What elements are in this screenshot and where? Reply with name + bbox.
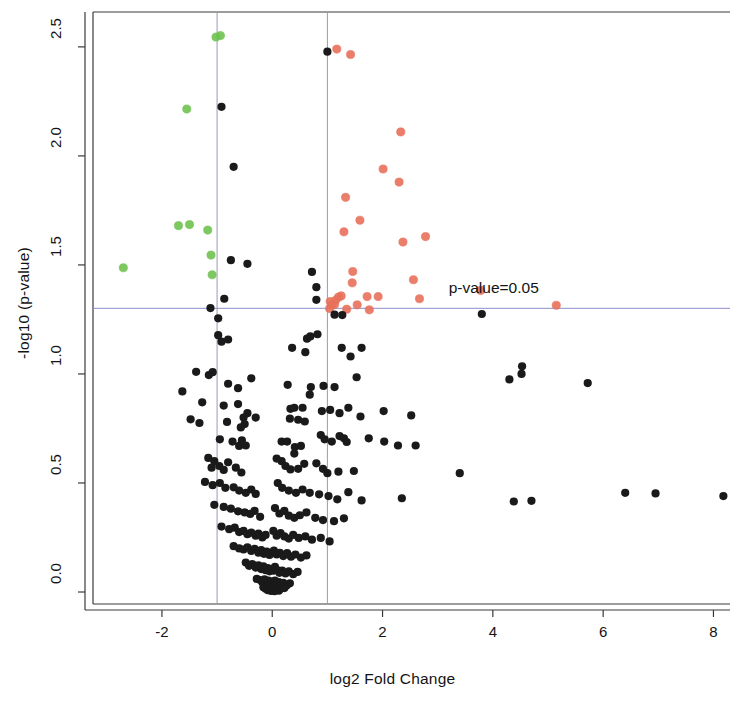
data-point <box>119 264 127 272</box>
y-axis-title: -log10 (p-value) <box>15 193 33 413</box>
data-point <box>312 296 320 304</box>
data-point <box>288 344 296 352</box>
data-point <box>399 238 407 246</box>
data-point <box>209 368 217 376</box>
data-point <box>527 497 535 505</box>
y-tick-label: 1.0 <box>47 337 64 373</box>
data-point <box>216 31 224 39</box>
x-tick-label: 0 <box>268 623 276 640</box>
series-not-significant <box>178 48 727 596</box>
x-tick-label: 6 <box>599 623 607 640</box>
data-point <box>313 330 321 338</box>
data-point <box>421 232 429 240</box>
threshold-lines <box>93 12 730 604</box>
data-point <box>349 267 357 275</box>
data-point <box>344 488 352 496</box>
data-point <box>365 434 373 442</box>
data-point <box>357 496 365 504</box>
data-point <box>308 268 316 276</box>
data-point <box>397 128 405 136</box>
x-tick-label: 2 <box>378 623 386 640</box>
data-point <box>252 413 260 421</box>
data-point <box>374 292 382 300</box>
data-point <box>330 517 338 525</box>
data-point <box>398 494 406 502</box>
data-point <box>323 469 331 477</box>
data-point <box>323 48 331 56</box>
data-point <box>319 516 327 524</box>
x-tick-label: -2 <box>155 623 168 640</box>
data-point <box>262 531 270 539</box>
data-point <box>242 441 250 449</box>
data-points-layer <box>119 31 727 595</box>
data-point <box>256 513 264 521</box>
data-point <box>311 514 319 522</box>
data-point <box>209 481 217 489</box>
data-point <box>518 362 526 370</box>
data-point <box>317 534 325 542</box>
data-point <box>380 407 388 415</box>
data-point <box>223 418 231 426</box>
data-point <box>621 489 629 497</box>
data-point <box>308 536 316 544</box>
data-point <box>216 435 224 443</box>
data-point <box>338 311 346 319</box>
data-point <box>312 283 320 291</box>
data-point <box>333 495 341 503</box>
data-point <box>192 368 200 376</box>
data-point <box>302 551 310 559</box>
data-point <box>224 380 232 388</box>
data-point <box>198 398 206 406</box>
data-point <box>174 222 182 230</box>
data-point <box>207 464 215 472</box>
data-point <box>217 522 225 530</box>
volcano-plot-figure: -2024680.00.51.01.52.02.5 p-value=0.05 l… <box>0 0 730 703</box>
pvalue-threshold-label: p-value=0.05 <box>449 279 539 297</box>
data-point <box>220 466 228 474</box>
data-point <box>285 487 293 495</box>
data-point <box>221 484 229 492</box>
data-point <box>286 415 294 423</box>
data-point <box>183 105 191 113</box>
data-point <box>206 304 214 312</box>
data-point <box>283 437 291 445</box>
data-point <box>338 344 346 352</box>
data-point <box>204 226 212 234</box>
data-point <box>315 490 323 498</box>
data-point <box>220 295 228 303</box>
data-point <box>306 332 314 340</box>
data-point <box>407 411 415 419</box>
data-point <box>284 381 292 389</box>
data-point <box>341 193 349 201</box>
data-point <box>357 344 365 352</box>
data-point <box>298 485 306 493</box>
data-point <box>208 271 216 279</box>
data-point <box>552 301 560 309</box>
data-point <box>307 383 315 391</box>
data-point <box>234 400 242 408</box>
data-point <box>259 583 267 591</box>
data-point <box>195 419 203 427</box>
data-point <box>394 441 402 449</box>
y-tick-label: 2.5 <box>47 10 64 46</box>
data-point <box>312 459 320 467</box>
data-point <box>356 216 364 224</box>
data-point <box>456 469 464 477</box>
data-point <box>334 293 342 301</box>
data-point <box>318 407 326 415</box>
data-point <box>298 404 306 412</box>
data-point <box>379 165 387 173</box>
data-point <box>214 314 222 322</box>
data-point <box>306 489 314 497</box>
data-point <box>237 423 245 431</box>
data-point <box>409 276 417 284</box>
data-point <box>510 497 518 505</box>
data-point <box>319 382 327 390</box>
data-point <box>234 384 242 392</box>
data-point <box>224 458 232 466</box>
series-down-regulated <box>119 31 224 278</box>
data-point <box>517 370 525 378</box>
data-point <box>302 508 310 516</box>
data-point <box>297 442 305 450</box>
data-point <box>334 468 342 476</box>
